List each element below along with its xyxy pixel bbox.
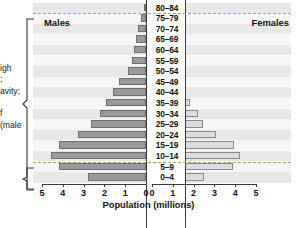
male-bar-track	[42, 151, 146, 162]
bracket-small	[22, 167, 36, 191]
x-axis-tick	[235, 184, 236, 187]
x-axis-tick	[173, 184, 174, 187]
x-axis-tick-label: 1	[166, 188, 180, 198]
x-axis-tick	[125, 184, 126, 187]
male-bar	[106, 99, 146, 107]
age-group-label: 50–54	[147, 66, 187, 77]
male-bar-track	[42, 140, 146, 151]
series-label-males: Males	[44, 17, 70, 28]
x-axis-tick-label: 1	[118, 188, 132, 198]
margin-note: avity;	[0, 86, 20, 96]
age-group-label: 15–19	[147, 140, 187, 151]
bracket-large	[22, 18, 36, 190]
male-bar	[132, 57, 146, 65]
male-bar	[138, 25, 146, 33]
age-group-label: 30–34	[147, 109, 187, 120]
x-axis-tick	[146, 184, 147, 187]
male-bar	[91, 120, 146, 128]
male-bar	[59, 141, 146, 149]
male-bar-track	[42, 130, 146, 141]
series-label-females: Females	[251, 17, 289, 28]
x-axis-tick	[256, 184, 257, 187]
male-bar	[136, 35, 146, 43]
male-bar-track	[42, 77, 146, 88]
male-bar-track	[42, 66, 146, 77]
male-bar-track	[42, 45, 146, 56]
age-group-label: 40–44	[147, 87, 187, 98]
x-axis-tick	[84, 184, 85, 187]
margin-note: f	[0, 108, 2, 118]
x-axis-tick-label: 3	[77, 188, 91, 198]
age-group-label: 60–64	[147, 45, 187, 56]
male-bar-track	[42, 109, 146, 120]
male-bar	[78, 131, 146, 139]
age-group-label: 35–39	[147, 98, 187, 109]
x-axis-tick-label: 0	[145, 188, 159, 198]
population-pyramid-chart: 80–8475–7970–7465–6960–6455–5950–5445–49…	[0, 0, 297, 228]
x-axis-tick	[63, 184, 64, 187]
male-bar	[113, 88, 146, 96]
male-bar-track	[42, 34, 146, 45]
age-group-label: 55–59	[147, 56, 187, 67]
x-axis-line-left	[42, 184, 146, 185]
male-bar	[119, 78, 146, 86]
dashed-separator-bottom	[33, 162, 291, 163]
age-group-label: 5–9	[147, 162, 187, 173]
age-group-label: 20–24	[147, 130, 187, 141]
x-axis-tick-label: 4	[56, 188, 70, 198]
x-axis-tick	[194, 184, 195, 187]
age-group-label: 65–69	[147, 34, 187, 45]
margin-note: (male	[0, 120, 22, 130]
age-group-label: 25–29	[147, 119, 187, 130]
x-axis-tick-label: 5	[35, 188, 49, 198]
x-axis-line-right	[152, 184, 256, 185]
age-group-label: 0–4	[147, 172, 187, 183]
x-axis-tick-label: 4	[228, 188, 242, 198]
x-axis-tick	[152, 184, 153, 187]
x-axis-tick	[42, 184, 43, 187]
x-axis-tick	[214, 184, 215, 187]
male-bar	[128, 67, 146, 75]
male-bar-track	[42, 162, 146, 173]
male-bar-track	[42, 98, 146, 109]
male-bar-track	[42, 172, 146, 183]
male-bar-track	[42, 3, 146, 14]
male-bar	[51, 152, 146, 160]
x-axis-tick-label: 5	[249, 188, 263, 198]
age-group-label: 45–49	[147, 77, 187, 88]
x-axis-tick-label: 2	[187, 188, 201, 198]
x-axis-tick	[104, 184, 105, 187]
male-bar	[100, 110, 146, 118]
age-group-label: 10–14	[147, 151, 187, 162]
age-group-label: 70–74	[147, 24, 187, 35]
male-bar-track	[42, 87, 146, 98]
male-bar-track	[42, 56, 146, 67]
x-axis-tick-label: 3	[207, 188, 221, 198]
x-axis-tick-label: 2	[97, 188, 111, 198]
dashed-separator-top	[33, 13, 291, 14]
age-group-label: 80–84	[147, 3, 187, 14]
margin-note: igh	[0, 63, 11, 73]
age-group-label: 75–79	[147, 13, 187, 24]
male-bar-track	[42, 119, 146, 130]
male-bar	[134, 46, 146, 54]
male-bar	[59, 163, 146, 171]
male-bar	[88, 173, 146, 181]
x-axis-title: Population (millions)	[0, 200, 297, 210]
margin-note: ;	[0, 74, 2, 84]
